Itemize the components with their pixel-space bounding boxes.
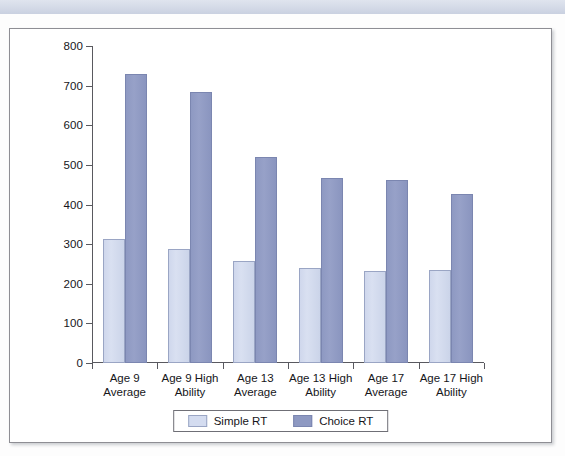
- bar-simple-rt[interactable]: [168, 249, 190, 363]
- bar-simple-rt[interactable]: [299, 268, 321, 363]
- bar-group: [157, 46, 222, 363]
- bar-group: [419, 46, 484, 363]
- y-axis-tick-label: 400: [64, 199, 84, 211]
- legend-label-simple-rt: Simple RT: [214, 415, 267, 427]
- y-axis-tick-label: 600: [64, 119, 84, 131]
- x-axis-tick: [157, 363, 158, 369]
- y-axis-tick-label: 500: [64, 159, 84, 171]
- legend-swatch-choice-rt: [293, 415, 312, 427]
- bar-choice-rt[interactable]: [190, 92, 212, 363]
- bar-group: [92, 46, 157, 363]
- bar-choice-rt[interactable]: [451, 194, 473, 363]
- x-axis-category-line: Ability: [405, 386, 497, 400]
- bar-choice-rt[interactable]: [255, 157, 277, 363]
- x-axis-category-label: Age 17 HighAbility: [405, 372, 497, 399]
- y-axis-tick-label: 0: [77, 357, 84, 369]
- bar-choice-rt[interactable]: [321, 178, 343, 363]
- legend-swatch-simple-rt: [188, 415, 207, 427]
- legend-item-choice-rt: Choice RT: [293, 415, 373, 427]
- y-axis-tick-label: 300: [64, 238, 84, 250]
- bar-series-container: [92, 46, 484, 363]
- x-axis-tick: [288, 363, 289, 369]
- bar-simple-rt[interactable]: [103, 239, 125, 363]
- legend-item-simple-rt: Simple RT: [188, 415, 267, 427]
- page-top-banner: [0, 0, 565, 14]
- x-axis-category-line: Age 17 High: [405, 372, 497, 386]
- bar-choice-rt[interactable]: [386, 180, 408, 363]
- y-axis-tick-label: 100: [64, 317, 84, 329]
- bar-group: [288, 46, 353, 363]
- bar-choice-rt[interactable]: [125, 74, 147, 363]
- x-axis-tick: [92, 363, 93, 369]
- chart-figure-frame: 0100200300400500600700800 Age 9AverageAg…: [9, 28, 552, 443]
- y-axis-tick-label: 700: [64, 80, 84, 92]
- x-axis-tick: [353, 363, 354, 369]
- bar-group: [353, 46, 418, 363]
- x-axis-tick: [419, 363, 420, 369]
- bar-simple-rt[interactable]: [233, 261, 255, 363]
- x-axis-tick: [223, 363, 224, 369]
- bar-simple-rt[interactable]: [429, 270, 451, 363]
- chart-legend: Simple RT Choice RT: [173, 410, 389, 432]
- legend-label-choice-rt: Choice RT: [319, 415, 373, 427]
- plot-area: 0100200300400500600700800 Age 9AverageAg…: [92, 46, 484, 363]
- y-axis-tick-label: 200: [64, 278, 84, 290]
- x-axis-tick: [484, 363, 485, 369]
- y-axis-tick-label: 800: [64, 40, 84, 52]
- bar-simple-rt[interactable]: [364, 271, 386, 363]
- bar-group: [223, 46, 288, 363]
